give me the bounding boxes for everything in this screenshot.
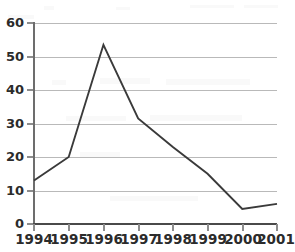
x-axis-labels: 1994 1995 1996 1997 1998 1999 2000 2001: [15, 231, 295, 247]
x-axis-label-1997: 1997: [120, 231, 158, 247]
x-axis-label-1999: 1999: [189, 231, 227, 247]
chart-canvas: 60 50 40 30 20 10 0 1994 1995 1996 1997 …: [0, 0, 295, 252]
y-axis-ticks: [27, 23, 33, 224]
y-axis-label-50: 50: [6, 49, 24, 64]
y-axis-label-40: 40: [6, 82, 24, 97]
data-series-line: [34, 45, 277, 209]
x-axis-label-1995: 1995: [50, 231, 88, 247]
y-axis-label-30: 30: [6, 116, 24, 131]
x-axis-label-1994: 1994: [15, 231, 53, 247]
x-axis-label-2001: 2001: [257, 231, 295, 247]
x-axis-label-1996: 1996: [85, 231, 123, 247]
y-axis-label-60: 60: [6, 15, 24, 30]
line-chart: 60 50 40 30 20 10 0 1994 1995 1996 1997 …: [0, 0, 295, 252]
gridlines: [33, 23, 277, 191]
y-axis-label-10: 10: [6, 183, 24, 198]
y-axis-label-20: 20: [6, 149, 24, 164]
y-axis-labels: 60 50 40 30 20 10 0: [6, 15, 24, 231]
x-axis-label-1998: 1998: [154, 231, 192, 247]
y-axis-label-0: 0: [15, 216, 24, 231]
x-axis-label-2000: 2000: [224, 231, 262, 247]
